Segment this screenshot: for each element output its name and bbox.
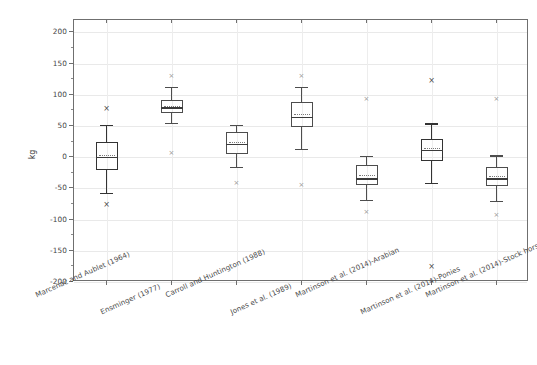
- y-axis-tick-mark: [69, 250, 73, 251]
- x-axis-tick-mark-top: [171, 19, 172, 23]
- x-axis-tick-mark: [106, 281, 107, 285]
- y-axis-tick-label: 200: [7, 27, 67, 36]
- y-axis-minor-tick: [71, 141, 74, 142]
- y-axis-tick-label: -150: [7, 245, 67, 254]
- y-axis-tick-mark: [69, 125, 73, 126]
- y-axis-tick-mark: [69, 219, 73, 220]
- plot-area: ×××××××××××××: [73, 19, 528, 281]
- y-axis-tick-mark: [69, 94, 73, 95]
- x-axis-tick-label: Jones et al. (1989): [229, 281, 293, 316]
- y-axis-tick-label: -100: [7, 214, 67, 223]
- box-plot-figure: kg ××××××××××××× 200150100500-50-100-150…: [0, 0, 537, 365]
- y-axis-minor-tick: [71, 172, 74, 173]
- x-axis-tick-mark: [171, 281, 172, 285]
- y-axis-tick-label: -50: [7, 183, 67, 192]
- whisker-cap-upper: [490, 155, 503, 156]
- x-axis-tick-mark-top: [106, 19, 107, 23]
- y-axis-minor-tick: [71, 203, 74, 204]
- x-axis-tick-mark-top: [431, 19, 432, 23]
- x-axis-tick-mark-top: [301, 19, 302, 23]
- outlier-marker: ×: [494, 96, 500, 103]
- y-axis-tick-label: 50: [7, 121, 67, 130]
- outlier-marker: ×: [494, 211, 500, 218]
- y-axis-minor-tick: [71, 47, 74, 48]
- box-mean-line: [489, 176, 505, 177]
- x-axis-tick-label: Ensminger (1977): [99, 282, 162, 316]
- y-axis-tick-label: 100: [7, 89, 67, 98]
- y-axis-minor-tick: [71, 78, 74, 79]
- box-plot-item: ××: [74, 20, 527, 280]
- whisker-upper: [496, 155, 497, 166]
- y-axis-minor-tick: [71, 109, 74, 110]
- x-axis-tick-mark: [301, 281, 302, 285]
- x-axis-tick-mark-top: [366, 19, 367, 23]
- y-axis-tick-mark: [69, 187, 73, 188]
- x-axis-tick-mark: [496, 281, 497, 285]
- whisker-cap-lower: [490, 201, 503, 202]
- x-axis-tick-mark: [366, 281, 367, 285]
- x-axis-tick-mark: [236, 281, 237, 285]
- box-median-line: [486, 178, 508, 179]
- y-axis-tick-mark: [69, 31, 73, 32]
- x-axis-tick-mark-top: [496, 19, 497, 23]
- whisker-lower: [496, 186, 497, 201]
- y-axis-minor-tick: [71, 234, 74, 235]
- y-axis-tick-mark: [69, 63, 73, 64]
- y-axis-tick-label: 150: [7, 58, 67, 67]
- y-axis-minor-tick: [71, 265, 74, 266]
- x-axis-tick-mark-top: [236, 19, 237, 23]
- y-axis-tick-label: 0: [7, 152, 67, 161]
- y-axis-tick-mark: [69, 156, 73, 157]
